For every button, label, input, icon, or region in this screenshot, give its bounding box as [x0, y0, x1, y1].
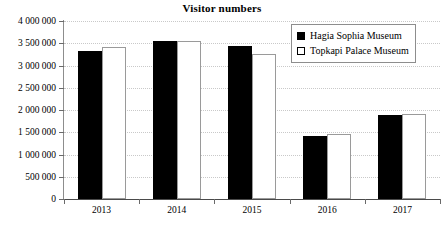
bar-2016-series-a[interactable]	[303, 136, 327, 199]
bar-2017-series-a[interactable]	[378, 115, 402, 199]
x-axis-line	[63, 199, 440, 200]
x-axis-label-2014: 2014	[167, 205, 186, 215]
bar-group-2016	[303, 134, 351, 199]
bar-2017-series-b[interactable]	[402, 114, 426, 199]
gridline	[64, 21, 440, 22]
y-axis-tick-label: 0	[0, 194, 56, 204]
y-axis-tick-label: 4 000 000	[0, 16, 56, 26]
x-axis-tick-mark	[64, 199, 65, 204]
bar-2015-series-b[interactable]	[252, 54, 276, 199]
legend-item-series-b: Topkapi Palace Museum	[297, 43, 409, 58]
bar-chart: Visitor numbers 0500 0001 000 0001 500 0…	[0, 0, 444, 226]
y-axis-tick-label: 2 000 000	[0, 105, 56, 115]
y-axis-tick-label: 500 000	[0, 172, 56, 182]
bar-2014-series-b[interactable]	[177, 41, 201, 199]
legend-swatch-filled-icon	[297, 32, 305, 40]
y-axis-tick-label: 3 000 000	[0, 61, 56, 71]
chart-title: Visitor numbers	[0, 2, 444, 14]
y-axis-tick-label: 3 500 000	[0, 38, 56, 48]
x-axis-tick-mark	[440, 199, 441, 204]
bar-2015-series-a[interactable]	[228, 46, 252, 199]
x-axis-label-2017: 2017	[393, 205, 412, 215]
y-axis-tick-label: 2 500 000	[0, 83, 56, 93]
bar-2013-series-a[interactable]	[78, 51, 102, 199]
x-axis-label-2016: 2016	[318, 205, 337, 215]
legend-swatch-open-icon	[297, 47, 305, 55]
y-axis-tick-label: 1 500 000	[0, 127, 56, 137]
y-axis-line	[63, 20, 64, 200]
bar-group-2017	[378, 114, 426, 199]
bar-2014-series-a[interactable]	[153, 41, 177, 199]
bar-group-2015	[228, 46, 276, 199]
x-axis-tick-mark	[365, 199, 366, 204]
bar-2016-series-b[interactable]	[327, 134, 351, 199]
y-axis-tick-label: 1 000 000	[0, 150, 56, 160]
legend: Hagia Sophia Museum Topkapi Palace Museu…	[291, 24, 416, 63]
bar-group-2013	[78, 47, 126, 199]
x-axis-tick-mark	[290, 199, 291, 204]
x-axis-label-2013: 2013	[92, 205, 111, 215]
x-axis-tick-mark	[214, 199, 215, 204]
bar-2013-series-b[interactable]	[102, 47, 126, 199]
legend-label-series-b: Topkapi Palace Museum	[310, 45, 409, 56]
bar-group-2014	[153, 41, 201, 199]
legend-label-series-a: Hagia Sophia Museum	[310, 30, 402, 41]
x-axis-label-2015: 2015	[243, 205, 262, 215]
legend-item-series-a: Hagia Sophia Museum	[297, 28, 409, 43]
x-axis-tick-mark	[139, 199, 140, 204]
